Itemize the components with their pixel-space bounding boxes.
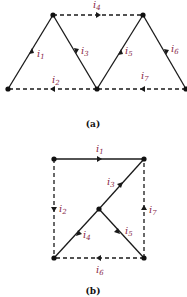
label-i2: i2 (52, 74, 60, 87)
branch-i6 (143, 15, 186, 89)
label-i5: i5 (125, 225, 133, 238)
branch-i5 (99, 209, 144, 258)
branch-i4 (54, 209, 99, 258)
arrow-up-icon (141, 205, 147, 210)
label-i3: i3 (107, 176, 115, 189)
label-i7: i7 (149, 204, 157, 217)
node (96, 206, 101, 211)
label-i2: i2 (59, 203, 67, 216)
node (51, 156, 56, 161)
node (50, 12, 55, 17)
branch-i3 (53, 15, 97, 89)
node (183, 86, 187, 91)
node (94, 86, 99, 91)
node (140, 12, 145, 17)
caption-a: (a) (86, 119, 100, 129)
label-i5: i5 (125, 45, 133, 58)
label-i6: i6 (171, 43, 179, 56)
node (51, 255, 56, 260)
circuit-graphs: i1 i2 i3 i4 i5 i6 i7 (a) i1 i2 i3 (0, 0, 187, 297)
label-i3: i3 (81, 45, 89, 58)
node (141, 255, 146, 260)
label-i7: i7 (141, 70, 149, 83)
figure-a: i1 i2 i3 i4 i5 i6 i7 (a) (5, 0, 187, 129)
node (5, 86, 10, 91)
arrow-down-icon (51, 207, 57, 212)
caption-b: (b) (86, 286, 101, 296)
arrow-left-icon (140, 86, 145, 92)
arrow-right-icon (97, 156, 102, 162)
label-i1: i1 (37, 48, 45, 61)
figure-b: i1 i2 i3 i4 i5 i6 i7 (b) (51, 143, 157, 296)
arrow-left-icon (96, 255, 101, 261)
arrow-right-icon (96, 12, 101, 18)
label-i4: i4 (83, 229, 91, 242)
arrow-up-icon (29, 48, 34, 54)
label-i1: i1 (96, 143, 104, 156)
label-i6: i6 (96, 264, 104, 277)
arrow-up-icon (118, 49, 123, 55)
node (141, 156, 146, 161)
label-i4: i4 (93, 0, 101, 12)
